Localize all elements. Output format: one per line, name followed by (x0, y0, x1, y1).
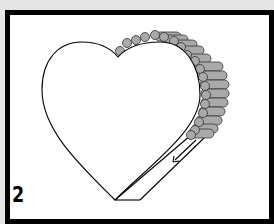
heart-outline (42, 42, 200, 200)
heart-diagram (0, 0, 274, 224)
step-number: 2 (12, 184, 24, 206)
arrow-icon (173, 140, 196, 162)
